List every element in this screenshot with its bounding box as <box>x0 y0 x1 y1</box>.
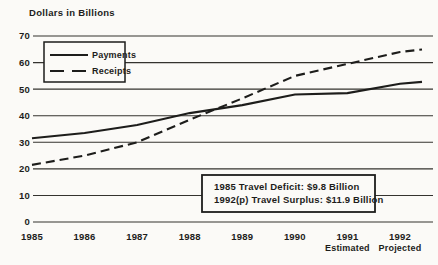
travel-balance-line-chart: 0102030405060701985198619871988198919901… <box>0 0 438 265</box>
legend-receipts-label: Receipts <box>92 66 131 76</box>
y-tick-label-60: 60 <box>19 57 30 68</box>
payments-line <box>32 82 422 138</box>
y-tick-label-10: 10 <box>19 190 30 201</box>
legend-payments-label: Payments <box>92 50 136 60</box>
x-tick-label-1987: 1987 <box>126 231 148 242</box>
annotation-line-1: 1985 Travel Deficit: $9.8 Billion <box>214 181 359 192</box>
y-tick-label-30: 30 <box>19 137 30 148</box>
y-tick-label-50: 50 <box>19 84 30 95</box>
chart-page: Dollars in Billions 01020304050607019851… <box>0 0 438 265</box>
y-tick-label-20: 20 <box>19 163 30 174</box>
y-tick-label-0: 0 <box>25 216 30 227</box>
x-tick-label-1989: 1989 <box>231 231 253 242</box>
x-tick-sublabel-projected: Projected <box>379 243 422 253</box>
y-tick-label-40: 40 <box>19 110 30 121</box>
x-tick-sublabel-estimated: Estimated <box>325 243 370 253</box>
x-tick-label-1992: 1992 <box>389 231 411 242</box>
x-tick-label-1991: 1991 <box>336 231 358 242</box>
y-tick-label-70: 70 <box>19 30 30 41</box>
x-tick-label-1986: 1986 <box>74 231 96 242</box>
x-tick-label-1990: 1990 <box>284 231 306 242</box>
x-tick-label-1988: 1988 <box>179 231 201 242</box>
x-tick-label-1985: 1985 <box>21 231 43 242</box>
annotation-line-2: 1992(p) Travel Surplus: $11.9 Billion <box>214 194 384 205</box>
